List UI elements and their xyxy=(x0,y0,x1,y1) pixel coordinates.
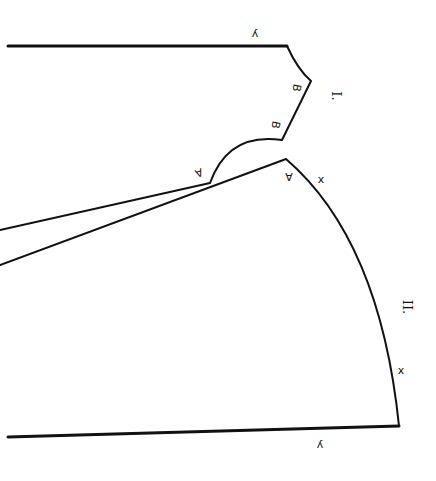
piece-i-outline xyxy=(0,46,311,230)
piece-i: y B B A I. xyxy=(0,28,344,230)
piece-ii: A x x y II. xyxy=(0,159,415,452)
label-b-lower: B xyxy=(268,120,282,130)
pattern-diagram: y B B A I. A x x y II. xyxy=(0,0,436,481)
label-x-lower: x xyxy=(398,364,405,377)
label-b-upper: B xyxy=(289,83,303,93)
piece-ii-bottom-edge xyxy=(8,426,399,437)
label-x-upper: x xyxy=(318,173,325,186)
label-a-piece-i: A xyxy=(193,165,205,180)
roman-label-i: I. xyxy=(329,91,344,100)
piece-ii-curve xyxy=(0,159,399,426)
label-a-piece-ii: A xyxy=(285,170,293,183)
label-y-bottom: y xyxy=(316,439,323,452)
label-y-top: y xyxy=(251,28,258,41)
roman-label-ii: II. xyxy=(400,300,415,314)
